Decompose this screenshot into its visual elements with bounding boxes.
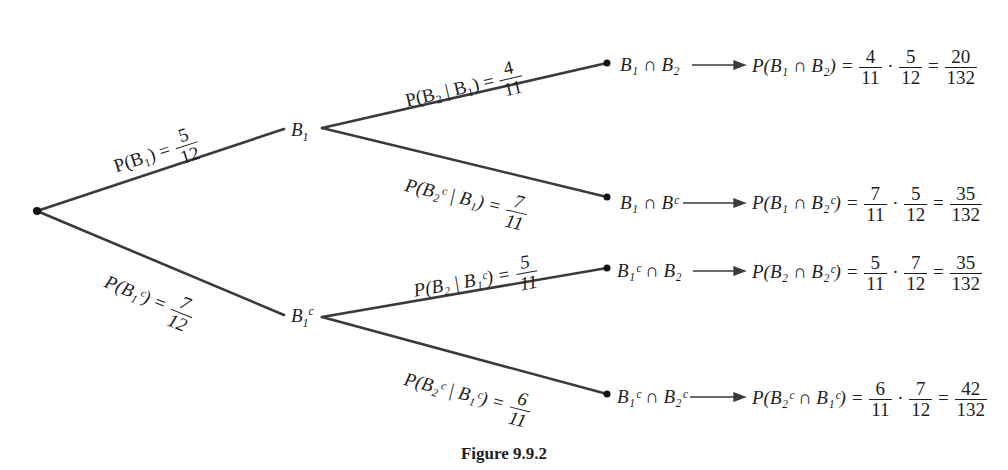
outcome-event-4: B₁ᶜ ∩ B₂ᶜ <box>617 387 687 406</box>
outcome-event-1: B₁ ∩ B₂ <box>620 55 680 74</box>
outcome-prob-1: P(B₁ ∩ B₂) = 411 · 512 = 20132 <box>752 47 978 88</box>
node-B1c: B1c <box>291 306 314 325</box>
leaf-node-1 <box>604 60 611 67</box>
leaf-node-2 <box>604 194 611 201</box>
root-node <box>33 207 41 215</box>
leaf-node-4 <box>604 391 611 398</box>
leaf-node-3 <box>604 265 611 272</box>
outcome-prob-2: P(B₁ ∩ B₂ᶜ) = 711 · 512 = 35132 <box>752 184 983 225</box>
outcome-prob-4: P(B₂ᶜ ∩ B₁ᶜ) = 611 · 712 = 42132 <box>752 379 988 420</box>
outcome-prob-3: P(B₂ ∩ B₂ᶜ) = 511 · 712 = 35132 <box>752 253 983 294</box>
figure-caption: Figure 9.9.2 <box>0 444 1008 464</box>
node-B1: B1 <box>291 120 309 139</box>
outcome-event-3: B₁ᶜ ∩ B₂ <box>617 261 682 280</box>
outcome-event-2: B₁ ∩ Bᶜ <box>620 193 678 212</box>
